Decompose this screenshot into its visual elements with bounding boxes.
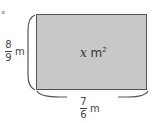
area-variable: x [80,46,87,60]
height-numerator: 8 [5,40,11,50]
width-label: 7 6 m [80,97,100,120]
height-label: 8 9 m [5,40,25,63]
height-denominator: 9 [5,53,11,63]
area-label: x m2 [80,46,107,60]
width-numerator: 7 [80,97,86,107]
width-denominator: 6 [80,110,86,120]
left-brace [28,15,35,90]
area-unit: m [91,46,103,60]
area-exponent: 2 [102,46,106,54]
width-unit: m [90,103,100,114]
height-unit: m [15,46,25,57]
